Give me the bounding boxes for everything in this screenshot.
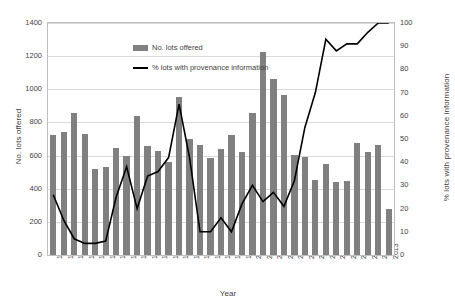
y-axis-left-tick-label: 1400 bbox=[16, 18, 42, 27]
y-axis-right-tick-label: 90 bbox=[400, 41, 426, 50]
y-axis-right-tick-label: 100 bbox=[400, 18, 426, 27]
y-axis-left-tick-label: 200 bbox=[16, 217, 42, 226]
y-axis-right-tick-label: 0 bbox=[400, 250, 426, 259]
y-axis-left-tick-label: 1200 bbox=[16, 51, 42, 60]
y-axis-right-tick-label: 60 bbox=[400, 111, 426, 120]
legend-label-bars: No. lots offered bbox=[152, 43, 203, 52]
y-axis-left-title: No. lots offered bbox=[14, 77, 23, 197]
bar-swatch-icon bbox=[133, 45, 148, 51]
y-axis-right-tick-label: 30 bbox=[400, 180, 426, 189]
y-axis-left-tick-label: 600 bbox=[16, 151, 42, 160]
chart-legend: No. lots offered % lots with provenance … bbox=[133, 43, 268, 83]
y-axis-left-tick-label: 800 bbox=[16, 117, 42, 126]
x-axis-title: Year bbox=[178, 289, 278, 298]
legend-item-line: % lots with provenance information bbox=[133, 63, 268, 72]
y-axis-left-tick-label: 400 bbox=[16, 184, 42, 193]
legend-label-line: % lots with provenance information bbox=[152, 63, 268, 72]
y-axis-left-tick-label: 1000 bbox=[16, 84, 42, 93]
chart-container: No. lots offered % lots with provenance … bbox=[0, 0, 455, 308]
y-axis-right-tick-label: 40 bbox=[400, 157, 426, 166]
y-axis-right-tick-label: 80 bbox=[400, 64, 426, 73]
y-axis-right-tick-label: 50 bbox=[400, 134, 426, 143]
y-axis-right-title: % lots with provenance information bbox=[442, 53, 451, 223]
y-axis-left-tick-label: 0 bbox=[16, 250, 42, 259]
y-axis-right-tick-label: 10 bbox=[400, 227, 426, 236]
y-axis-right-tick-label: 70 bbox=[400, 88, 426, 97]
legend-item-bars: No. lots offered bbox=[133, 43, 268, 52]
y-axis-right-tick-label: 20 bbox=[400, 204, 426, 213]
line-swatch-icon bbox=[133, 67, 148, 69]
